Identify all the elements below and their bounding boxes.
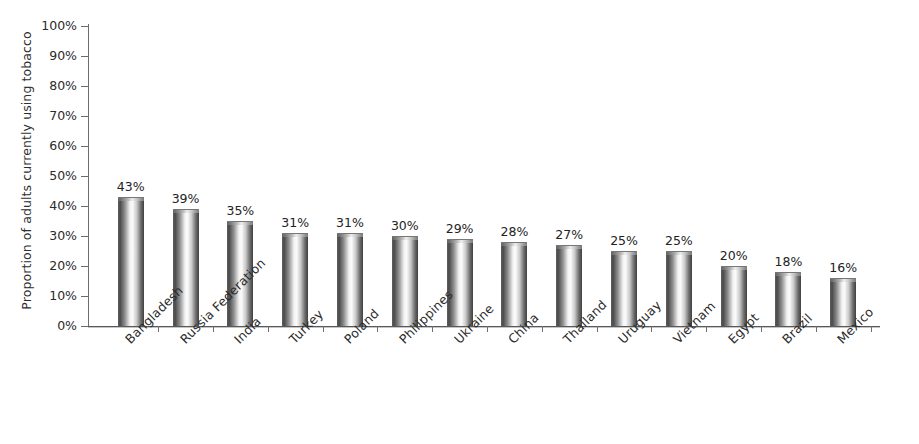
y-axis-tick: 90% — [81, 56, 88, 57]
bar-value-label: 35% — [210, 203, 270, 218]
bar: 31% — [282, 233, 308, 326]
y-axis-tick: 10% — [81, 296, 88, 297]
x-axis-tick — [487, 326, 488, 332]
bar-chart-figure: Proportion of adults currently using tob… — [0, 0, 919, 444]
y-axis-tick-label: 30% — [49, 228, 77, 243]
x-axis-tick — [761, 326, 762, 332]
y-axis-tick: 80% — [81, 86, 88, 87]
x-axis-tick — [597, 326, 598, 332]
bar: 31% — [337, 233, 363, 326]
bar-value-label: 25% — [594, 233, 654, 248]
x-axis-tick — [706, 326, 707, 332]
y-axis-tick-label: 70% — [49, 108, 77, 123]
bar-value-label: 28% — [484, 224, 544, 239]
x-axis-tick — [816, 326, 817, 332]
bar: 28% — [501, 242, 527, 326]
y-axis-tick: 100% — [81, 26, 88, 27]
x-axis-tick — [268, 326, 269, 332]
bar-value-label: 43% — [101, 179, 161, 194]
bar-value-label: 27% — [539, 227, 599, 242]
x-axis-tick — [323, 326, 324, 332]
y-axis-tick-label: 0% — [57, 318, 77, 333]
bar: 43% — [118, 197, 144, 326]
y-axis-tick-label: 10% — [49, 288, 77, 303]
y-axis-tick: 40% — [81, 206, 88, 207]
y-axis-title: Proportion of adults currently using tob… — [19, 11, 34, 331]
y-axis-tick-label: 90% — [49, 48, 77, 63]
x-axis-tick — [158, 326, 159, 332]
bar-value-label: 29% — [430, 221, 490, 236]
y-axis-tick: 60% — [81, 146, 88, 147]
bar-value-label: 16% — [813, 260, 873, 275]
y-axis-tick-label: 50% — [49, 168, 77, 183]
y-axis-line — [88, 24, 89, 327]
y-axis-tick-label: 100% — [41, 18, 77, 33]
x-axis-tick — [213, 326, 214, 332]
bar: 25% — [611, 251, 637, 326]
bar-value-label: 31% — [320, 215, 380, 230]
x-axis-tick — [542, 326, 543, 332]
bar: 39% — [173, 209, 199, 326]
y-axis-tick-label: 80% — [49, 78, 77, 93]
y-axis-tick: 70% — [81, 116, 88, 117]
y-axis-tick-label: 20% — [49, 258, 77, 273]
plot-area: 0%10%20%30%40%50%60%70%80%90%100% 43%39%… — [88, 26, 880, 326]
bar: 30% — [392, 236, 418, 326]
bar-value-label: 39% — [156, 191, 216, 206]
bar: 25% — [666, 251, 692, 326]
bar-value-label: 18% — [758, 254, 818, 269]
y-axis-tick: 50% — [81, 176, 88, 177]
y-axis-tick: 20% — [81, 266, 88, 267]
bar: 27% — [556, 245, 582, 326]
bar-value-label: 30% — [375, 218, 435, 233]
y-axis-tick: 30% — [81, 236, 88, 237]
bar-value-label: 25% — [649, 233, 709, 248]
x-axis-tick — [651, 326, 652, 332]
x-axis-tick — [432, 326, 433, 332]
x-axis-tick — [871, 326, 872, 332]
bar-value-label: 31% — [265, 215, 325, 230]
y-axis-tick: 0% — [81, 326, 88, 327]
bar-value-label: 20% — [704, 248, 764, 263]
bar: 29% — [447, 239, 473, 326]
x-axis-tick — [377, 326, 378, 332]
y-axis-tick-label: 60% — [49, 138, 77, 153]
y-axis-tick-label: 40% — [49, 198, 77, 213]
